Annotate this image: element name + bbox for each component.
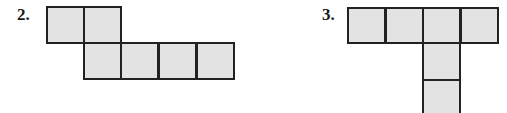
figure-2-label: 2.	[17, 6, 30, 23]
net-square	[422, 7, 461, 44]
net-square	[422, 42, 461, 81]
net-square	[83, 42, 122, 80]
net-square	[158, 42, 197, 80]
net-square	[460, 7, 499, 44]
net-square	[120, 42, 159, 80]
net-square	[46, 6, 85, 44]
figure-3-label: 3.	[322, 6, 335, 23]
net-square	[422, 79, 461, 113]
net-square	[83, 6, 122, 44]
net-square	[196, 42, 235, 80]
net-square	[385, 7, 424, 44]
net-square	[347, 7, 386, 44]
